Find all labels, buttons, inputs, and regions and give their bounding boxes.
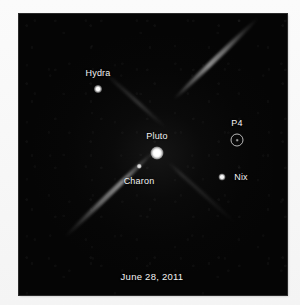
p4-point-source — [236, 139, 239, 142]
pluto-label: Pluto — [146, 132, 168, 141]
charon-point-source — [137, 164, 142, 169]
diffraction-spike-northwest — [102, 70, 167, 129]
astronomical-image-plate: Hydra Pluto Charon Nix P4 June 28, 2011 — [19, 14, 287, 295]
date-caption: June 28, 2011 — [121, 272, 184, 282]
diffraction-spike-southwest — [63, 150, 156, 240]
hydra-label: Hydra — [85, 69, 110, 78]
p4-circle-marker-icon — [231, 134, 244, 147]
pluto-point-source — [151, 147, 164, 160]
scattered-light-glow — [33, 35, 273, 275]
page-background: Hydra Pluto Charon Nix P4 June 28, 2011 — [0, 0, 300, 305]
nix-label: Nix — [234, 173, 248, 182]
diffraction-spike-northeast — [172, 16, 260, 102]
charon-label: Charon — [124, 177, 155, 186]
nix-point-source — [219, 174, 226, 181]
diffraction-spike-southeast — [165, 160, 236, 225]
sensor-noise-overlay — [19, 14, 287, 295]
hydra-point-source — [94, 85, 102, 93]
p4-label: P4 — [231, 119, 242, 128]
